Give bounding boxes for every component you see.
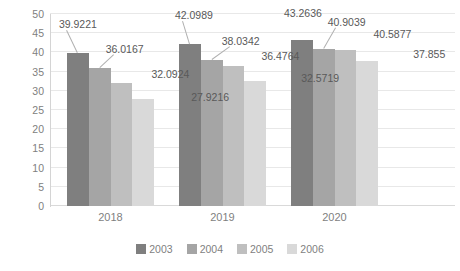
- legend-item-2004[interactable]: 2004: [187, 244, 223, 255]
- data-label: 40.9039: [328, 17, 366, 28]
- legend-label: 2003: [149, 244, 172, 255]
- bar[interactable]: [89, 68, 111, 206]
- bar-group: [291, 14, 378, 206]
- plot-area: 39.922136.016732.092427.921642.098938.03…: [50, 14, 455, 206]
- x-axis-label: 2018: [67, 212, 154, 223]
- y-tick-label: 20: [18, 124, 44, 135]
- legend-label: 2004: [200, 244, 223, 255]
- legend-swatch-icon: [237, 244, 247, 254]
- data-label: 37.855: [413, 49, 445, 60]
- bar[interactable]: [67, 53, 89, 206]
- y-tick-label: 50: [18, 9, 44, 20]
- y-tick-label: 45: [18, 28, 44, 39]
- data-label: 32.0924: [151, 69, 189, 80]
- y-tick-label: 10: [18, 162, 44, 173]
- bar[interactable]: [201, 60, 223, 206]
- bar[interactable]: [132, 99, 154, 206]
- bar[interactable]: [356, 61, 378, 206]
- data-label: 27.9216: [191, 92, 229, 103]
- y-axis-line: [50, 14, 51, 207]
- y-tick-label: 30: [18, 86, 44, 97]
- y-tick-label: 15: [18, 143, 44, 154]
- bar[interactable]: [223, 66, 245, 206]
- legend-item-2006[interactable]: 2006: [287, 244, 323, 255]
- x-axis-label: 2020: [291, 212, 378, 223]
- legend-item-2005[interactable]: 2005: [237, 244, 273, 255]
- legend-swatch-icon: [136, 244, 146, 254]
- legend-swatch-icon: [287, 244, 297, 254]
- y-tick-label: 40: [18, 47, 44, 58]
- y-tick-label: 0: [18, 201, 44, 212]
- data-label: 43.2636: [284, 8, 322, 19]
- legend-swatch-icon: [187, 244, 197, 254]
- data-label: 42.0989: [175, 10, 213, 21]
- legend-label: 2006: [300, 244, 323, 255]
- bars: [291, 14, 378, 206]
- data-label: 36.4764: [261, 51, 299, 62]
- data-label: 40.5877: [373, 29, 411, 40]
- data-label: 38.0342: [222, 36, 260, 47]
- data-label: 39.9221: [59, 19, 97, 30]
- y-tick-label: 5: [18, 182, 44, 193]
- y-tick-label: 25: [18, 105, 44, 116]
- legend-item-2003[interactable]: 2003: [136, 244, 172, 255]
- legend-label: 2005: [250, 244, 273, 255]
- data-label: 32.5719: [301, 73, 339, 84]
- y-axis-ticks: 05101520253035404550: [14, 14, 44, 206]
- bar[interactable]: [111, 83, 133, 206]
- data-label: 36.0167: [106, 44, 144, 55]
- y-tick-label: 35: [18, 66, 44, 77]
- bar-chart: 39.922136.016732.092427.921642.098938.03…: [0, 0, 460, 271]
- x-axis-label: 2019: [179, 212, 266, 223]
- bar[interactable]: [244, 81, 266, 206]
- legend: 2003200420052006: [0, 244, 460, 255]
- bar[interactable]: [291, 40, 313, 206]
